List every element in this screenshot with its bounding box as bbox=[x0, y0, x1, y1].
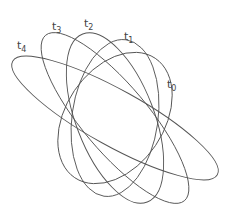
ellipse-t0 bbox=[34, 31, 196, 205]
ellipse-t1 bbox=[61, 34, 168, 202]
label-t3: t3 bbox=[52, 20, 61, 35]
label-group: t0t1t2t3t4 bbox=[17, 17, 176, 93]
label-t1: t1 bbox=[124, 30, 133, 45]
label-t0: t0 bbox=[167, 78, 176, 93]
ellipse-t4 bbox=[0, 37, 231, 199]
ellipse-t3 bbox=[20, 14, 209, 210]
rotating-ellipses-diagram: t0t1t2t3t4 bbox=[0, 0, 238, 210]
label-t4: t4 bbox=[17, 39, 26, 54]
ellipse-group bbox=[0, 14, 231, 210]
label-t2: t2 bbox=[84, 17, 93, 32]
